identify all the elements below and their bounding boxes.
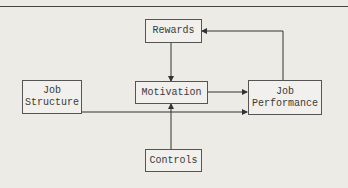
node-job-structure-line2: Structure — [25, 97, 79, 109]
node-job-structure: Job Structure — [22, 80, 82, 114]
node-rewards-label: Rewards — [152, 25, 194, 37]
node-rewards: Rewards — [145, 19, 202, 43]
node-job-structure-line1: Job — [43, 85, 61, 97]
node-controls: Controls — [145, 149, 202, 172]
node-motivation: Motivation — [135, 81, 208, 104]
node-motivation-label: Motivation — [141, 87, 201, 99]
node-job-performance-line1: Job — [276, 86, 294, 98]
node-job-performance-line2: Performance — [252, 98, 318, 110]
node-controls-label: Controls — [149, 155, 197, 167]
node-job-performance: Job Performance — [248, 80, 322, 115]
edge-performance-rewards — [202, 31, 283, 80]
